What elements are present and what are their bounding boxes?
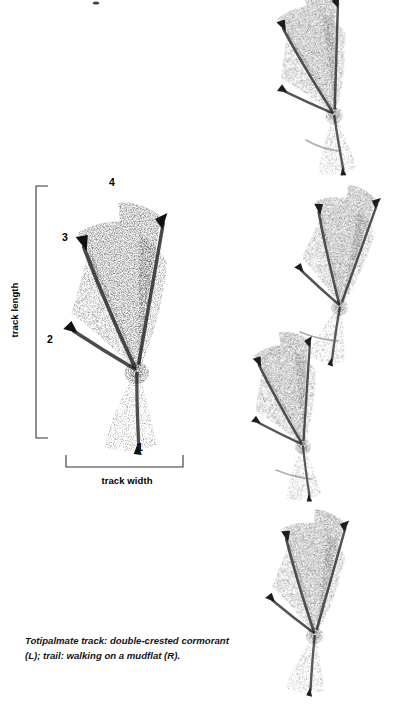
track-length-label: track length xyxy=(9,282,20,337)
trail-track-4 xyxy=(255,505,350,699)
digit-label-2: 2 xyxy=(47,333,53,345)
digit-label-3: 3 xyxy=(62,231,68,243)
figure-caption: Totipalmate track: double-crested cormor… xyxy=(25,634,325,663)
digit-label-4: 4 xyxy=(109,176,115,188)
track-length-bracket xyxy=(36,186,48,438)
track-width-bracket xyxy=(66,455,183,467)
trail-panel xyxy=(242,0,382,699)
track-width-label: track width xyxy=(101,475,152,486)
digit-label-1: 1 xyxy=(137,441,143,453)
track-illustration xyxy=(0,0,403,704)
caption-line-2: (L); trail: walking on a mudflat (R). xyxy=(25,649,325,664)
trail-track-1 xyxy=(264,0,365,183)
track-detail-panel xyxy=(36,186,183,467)
cormorant-track-detail xyxy=(63,203,167,455)
caption-line-1: Totipalmate track: double-crested cormor… xyxy=(25,634,325,649)
scan-artifact-fleck xyxy=(93,1,99,4)
figure-page: track length track width 1 2 3 4 Totipal… xyxy=(0,0,403,704)
